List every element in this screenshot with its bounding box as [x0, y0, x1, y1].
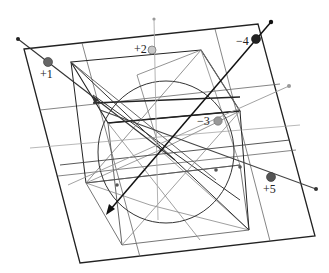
- charge-point-4: −4: [236, 34, 261, 48]
- label-p2: +2: [134, 42, 147, 56]
- charge-point-1: +1: [40, 58, 53, 82]
- label-p3: −3: [197, 114, 210, 128]
- outer-plane: [24, 24, 315, 263]
- cube-bottom-face: [86, 165, 249, 245]
- label-p4: −4: [236, 34, 249, 48]
- charge-point-5: +5: [263, 173, 276, 197]
- label-p5: +5: [263, 182, 276, 196]
- diagram-canvas: +1 +2 −3 −4 +5: [0, 0, 329, 273]
- charge-point-2: +2: [134, 42, 156, 56]
- label-p1: +1: [40, 67, 53, 81]
- cube-field-diagram: +1 +2 −3 −4 +5: [0, 0, 329, 273]
- charge-point-3: −3: [197, 114, 222, 128]
